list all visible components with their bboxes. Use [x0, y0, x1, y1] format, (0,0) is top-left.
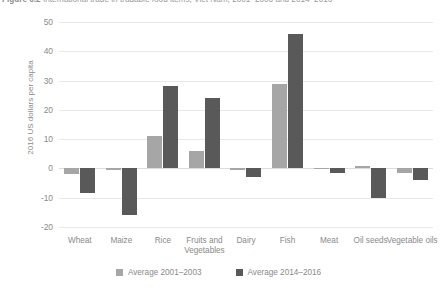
bar-group: Wheat	[59, 22, 101, 227]
bar-group: Oil seeds	[350, 22, 392, 227]
bar	[106, 168, 121, 169]
bar	[230, 168, 245, 170]
bar	[80, 168, 95, 193]
y-axis-tick-label: -10	[41, 193, 53, 203]
gridline	[59, 227, 433, 228]
bar-group: Maize	[101, 22, 143, 227]
bar	[163, 86, 178, 168]
y-axis-tick-label: 50	[44, 17, 53, 27]
bar-group: Meat	[308, 22, 350, 227]
bar-group: Rice	[142, 22, 184, 227]
plot-area: 50403020100-10-20 WheatMaizeRiceFruits a…	[59, 22, 433, 227]
y-axis-tick-label: 40	[44, 46, 53, 56]
bar	[330, 168, 345, 172]
legend-label: Average 2001–2003	[128, 268, 202, 277]
bar	[413, 168, 428, 180]
y-axis-tick-label: 10	[44, 134, 53, 144]
bar	[205, 98, 220, 168]
x-axis-tick-label: Vegetable oils	[382, 236, 442, 246]
bar-group: Fish	[267, 22, 309, 227]
bar	[288, 34, 303, 169]
y-axis-tick-label: 30	[44, 76, 53, 86]
bar-chart: 2016 US dollars per capita 50403020100-1…	[0, 8, 437, 266]
bar	[246, 168, 261, 177]
bar	[272, 84, 287, 169]
legend-swatch-icon	[236, 269, 243, 276]
legend-item[interactable]: Average 2001–2003	[116, 268, 202, 277]
figure-title-text: International trade in tradable food ite…	[43, 0, 332, 4]
y-axis-title: 2016 US dollars per capita	[26, 28, 35, 188]
chart-legend: Average 2001–2003Average 2014–2016	[0, 268, 437, 277]
bar-group: Vegetable oils	[391, 22, 433, 227]
legend-item[interactable]: Average 2014–2016	[236, 268, 322, 277]
y-axis-tick-label: 20	[44, 105, 53, 115]
bar	[355, 166, 370, 169]
bar	[397, 168, 412, 172]
bar	[64, 168, 79, 174]
figure-title: Figure 6.2 International trade in tradab…	[2, 0, 435, 6]
y-axis-tick-label: -20	[41, 222, 53, 232]
legend-swatch-icon	[116, 269, 123, 276]
bar-group: Dairy	[225, 22, 267, 227]
bar-group: Fruits and Vegetables	[184, 22, 226, 227]
y-axis-tick-label: 0	[48, 163, 53, 173]
bar	[314, 168, 329, 169]
legend-label: Average 2014–2016	[248, 268, 322, 277]
bar	[147, 136, 162, 168]
bar	[371, 168, 386, 197]
figure-number: Figure 6.2	[2, 0, 41, 4]
bar	[122, 168, 137, 215]
bar	[189, 151, 204, 169]
